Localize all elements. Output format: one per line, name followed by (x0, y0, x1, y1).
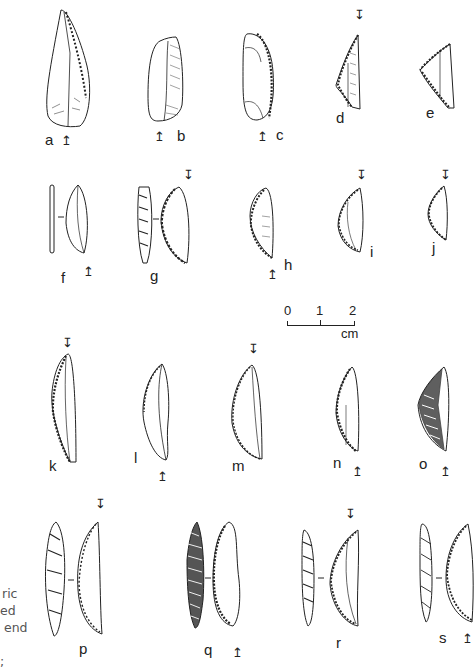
artifact-q-label: q (204, 642, 212, 657)
artifact-a-drawing (40, 8, 100, 128)
orientation-arrow-icon: ↧ (354, 8, 365, 21)
artifact-k-label: k (49, 458, 57, 473)
artifact-j-drawing (426, 184, 450, 242)
orientation-arrow-icon: ↧ (356, 168, 367, 181)
orientation-arrow-icon: ↧ (440, 168, 451, 181)
orientation-arrow-icon: ↧ (183, 168, 194, 181)
artifact-i-label: i (370, 244, 373, 259)
scale-bar-mid-tick (320, 320, 321, 325)
caption-line-5: ; (0, 653, 28, 670)
orientation-arrow-icon: ↧ (62, 336, 73, 349)
artifact-f-label: f (61, 270, 65, 285)
scale-bar: 0 1 2 cm (283, 303, 373, 343)
orientation-arrow-icon: ↥ (154, 130, 165, 143)
artifact-n-drawing (334, 365, 362, 453)
artifact-i-drawing (336, 186, 366, 254)
artifact-f-drawing (48, 183, 94, 255)
artifact-s-label: s (439, 630, 447, 645)
orientation-arrow-icon: ↥ (267, 268, 278, 281)
artifact-c-label: c (276, 127, 284, 142)
artifact-s-drawing (418, 522, 475, 626)
orientation-arrow-icon: ↧ (248, 342, 259, 355)
scale-tick-0: 0 (284, 303, 291, 318)
scale-tick-2: 2 (349, 303, 356, 318)
artifact-m-drawing (230, 363, 264, 461)
artifact-g-label: g (150, 268, 158, 283)
artifact-g-drawing (135, 185, 195, 265)
artifact-e-label: e (426, 105, 434, 120)
orientation-arrow-icon: ↥ (232, 646, 243, 659)
orientation-arrow-icon: ↥ (352, 465, 363, 478)
artifact-d-label: d (336, 110, 344, 125)
artifact-b-label: b (177, 128, 185, 143)
figure-caption-fragment: ric ed end ; (0, 585, 28, 670)
artifact-n-label: n (333, 455, 341, 470)
artifact-q-drawing (185, 520, 245, 630)
orientation-arrow-icon: ↥ (157, 470, 168, 483)
artifact-h-label: h (284, 257, 292, 272)
caption-line-2: ed (0, 602, 28, 619)
orientation-arrow-icon: ↥ (83, 265, 94, 278)
caption-line-1: ric (0, 585, 28, 602)
orientation-arrow-icon: ↥ (440, 465, 451, 478)
artifact-r-label: r (336, 635, 341, 650)
orientation-arrow-icon: ↥ (61, 134, 72, 147)
artifact-r-drawing (300, 528, 372, 628)
orientation-arrow-icon: ↥ (257, 130, 268, 143)
scale-unit: cm (341, 326, 358, 341)
artifact-l-drawing (140, 362, 174, 462)
artifact-a-label: a (45, 132, 53, 147)
artifact-c-drawing (243, 32, 277, 122)
artifact-d-drawing (334, 33, 364, 111)
artifact-m-label: m (232, 458, 245, 473)
orientation-arrow-icon: ↧ (345, 507, 356, 520)
artifact-e-drawing (418, 42, 458, 112)
artifact-b-drawing (146, 35, 186, 125)
caption-line-4 (0, 636, 28, 653)
artifact-l-label: l (134, 450, 137, 465)
artifact-o-label: o (419, 456, 427, 471)
artifact-k-drawing (48, 352, 78, 464)
caption-line-3: end (0, 619, 28, 636)
artifact-j-label: j (432, 240, 435, 255)
artifact-o-drawing (416, 365, 452, 453)
artifact-p-label: p (79, 641, 87, 656)
scale-tick-1: 1 (316, 303, 323, 318)
orientation-arrow-icon: ↥ (462, 632, 473, 645)
orientation-arrow-icon: ↧ (95, 497, 106, 510)
artifact-p-drawing (44, 520, 104, 638)
artifact-h-drawing (248, 186, 276, 260)
